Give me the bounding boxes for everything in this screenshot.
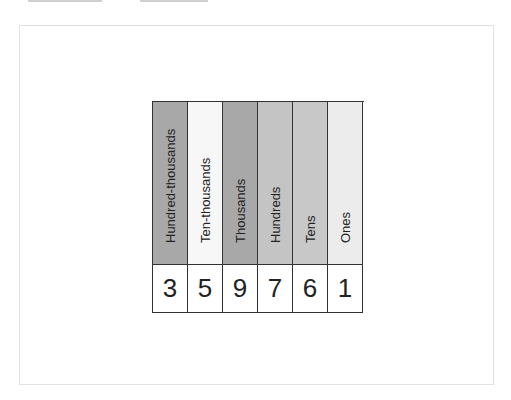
place-label-row: Hundred-thousands Ten-thousands Thousand… <box>153 102 364 265</box>
digit-ten-thousands: 5 <box>188 265 223 313</box>
top-tab-line-1 <box>28 0 102 2</box>
place-header-ten-thousands: Ten-thousands <box>188 102 223 265</box>
place-header-ones: Ones <box>328 102 363 265</box>
place-header-hundred-thousands: Hundred-thousands <box>153 102 188 265</box>
place-header-thousands: Thousands <box>223 102 258 265</box>
digit-row: 3 5 9 7 6 1 <box>153 265 364 313</box>
top-tab-line-2 <box>140 0 208 2</box>
place-header-hundreds: Hundreds <box>258 102 293 265</box>
place-header-tens: Tens <box>293 102 328 265</box>
place-value-chart: Hundred-thousands Ten-thousands Thousand… <box>152 101 364 313</box>
digit-hundreds: 7 <box>258 265 293 313</box>
digit-tens: 6 <box>293 265 328 313</box>
digit-thousands: 9 <box>223 265 258 313</box>
digit-hundred-thousands: 3 <box>153 265 188 313</box>
digit-ones: 1 <box>328 265 363 313</box>
